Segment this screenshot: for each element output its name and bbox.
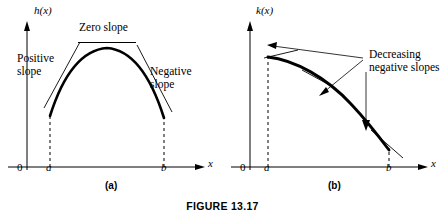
x-axis-b: [231, 164, 428, 170]
figure-caption: FIGURE 13.17: [0, 200, 445, 212]
x-axis-label-b: x: [431, 158, 436, 170]
tick-label-a: a: [46, 161, 52, 173]
panel-sublabel-a: (a): [105, 180, 117, 191]
y-axis-label-b: k(x): [256, 5, 273, 17]
figure-container: h(x) x 0 a b Positive slope Zero slope N…: [0, 0, 445, 221]
panel-b-graphic: [223, 0, 445, 196]
tick-label-b: b: [161, 161, 167, 173]
curve-h-of-x: [50, 48, 164, 118]
annotation-zero-slope: Zero slope: [79, 21, 128, 34]
annotation-positive-slope: Positive slope: [17, 52, 54, 78]
x-axis-a: [8, 164, 205, 170]
y-axis-a: [24, 21, 30, 170]
tick-label-a: a: [264, 161, 270, 173]
y-axis-label-a: h(x): [34, 5, 52, 17]
panel-a: h(x) x 0 a b Positive slope Zero slope N…: [0, 0, 222, 196]
origin-label-a: 0: [17, 161, 23, 173]
panel-b: k(x) x 0 a b Decreasing negative slopes …: [223, 0, 445, 196]
annotation-decreasing-negative-slopes: Decreasing negative slopes: [369, 48, 440, 74]
arrow-to-tangent-near-b: [362, 72, 370, 131]
arrow-to-tangent-near-a: [267, 42, 363, 58]
x-axis-label-a: x: [208, 158, 213, 170]
tick-label-b: b: [386, 161, 392, 173]
y-axis-b: [247, 21, 253, 170]
arrow-to-tangent-middle: [319, 60, 363, 96]
annotation-negative-slope: Negative slope: [150, 65, 192, 91]
panel-sublabel-b: (b): [328, 180, 341, 191]
origin-label-b: 0: [240, 161, 246, 173]
